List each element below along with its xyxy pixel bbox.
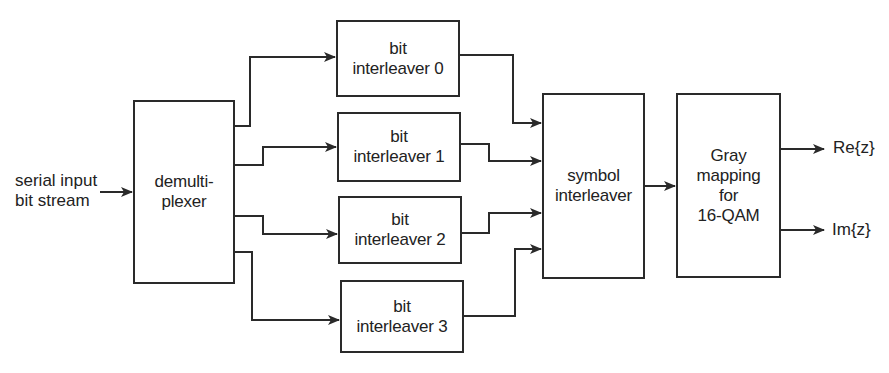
symbol-interleaver-block: symbol interleaver (542, 93, 645, 279)
bit-interleaver-3-label: bit interleaver 3 (357, 297, 448, 337)
output-re-text: Re{z} (833, 138, 875, 157)
output-im-label: Im{z} (832, 220, 871, 240)
demux-to-bi0 (234, 57, 335, 126)
bi2-to-symbol (461, 213, 541, 233)
bit-interleaver-3-block: bit interleaver 3 (340, 280, 464, 353)
gray-mapping-block: Gray mapping for 16-QAM (676, 93, 781, 278)
bit-interleaver-2-block: bit interleaver 2 (338, 196, 462, 264)
input-label-text: serial input bit stream (15, 171, 97, 210)
output-re-label: Re{z} (833, 138, 875, 158)
bit-interleaver-1-block: bit interleaver 1 (337, 112, 461, 182)
bi0-to-symbol (459, 55, 541, 123)
demultiplexer-label: demulti- plexer (155, 172, 214, 212)
bit-interleaver-2-label: bit interleaver 2 (355, 210, 446, 250)
symbol-interleaver-label: symbol interleaver (555, 166, 632, 206)
input-label: serial input bit stream (15, 171, 97, 211)
demux-to-bi3 (234, 252, 339, 320)
bi1-to-symbol (460, 144, 541, 161)
demux-to-bi2 (234, 216, 337, 234)
bit-interleaver-1-label: bit interleaver 1 (354, 127, 445, 167)
demultiplexer-block: demulti- plexer (133, 100, 235, 284)
bi3-to-symbol (463, 249, 541, 316)
bit-interleaver-0-block: bit interleaver 0 (336, 20, 460, 97)
demux-to-bi1 (234, 147, 336, 165)
output-im-text: Im{z} (832, 220, 871, 239)
gray-mapping-label: Gray mapping for 16-QAM (697, 146, 761, 226)
bit-interleaver-0-label: bit interleaver 0 (353, 39, 444, 79)
